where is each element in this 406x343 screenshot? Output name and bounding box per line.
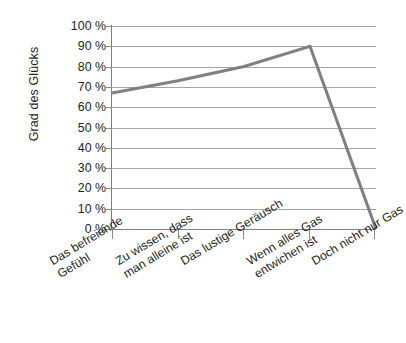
series-polyline [112, 46, 376, 229]
